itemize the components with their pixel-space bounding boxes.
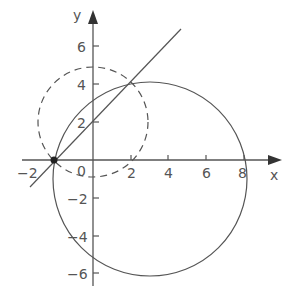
y-tick-label-minus4: −4 xyxy=(67,229,88,245)
y-axis-label: y xyxy=(73,7,81,23)
x-tick-label-0: 0 xyxy=(77,163,86,179)
x-axis-label: x xyxy=(270,167,278,183)
y-tick-label-2: 2 xyxy=(77,115,86,131)
y-tick-label-minus6: −6 xyxy=(67,266,88,282)
plot-area: y x −2 0 2 4 6 8 6 4 2 −2 −4 −6 xyxy=(0,0,285,290)
point-minus2-0 xyxy=(51,157,58,164)
y-axis-arrow-icon xyxy=(88,10,98,24)
x-tick-label-6: 6 xyxy=(202,165,211,181)
line-y-equals-x-plus-2 xyxy=(30,29,181,187)
solid-circle xyxy=(53,82,247,276)
x-tick-label-minus2: −2 xyxy=(17,165,38,181)
x-tick-label-8: 8 xyxy=(238,165,247,181)
y-tick-label-6: 6 xyxy=(77,39,86,55)
x-tick-label-4: 4 xyxy=(164,165,173,181)
x-axis-arrow-icon xyxy=(268,155,282,165)
x-ticks xyxy=(131,155,244,160)
y-tick-label-4: 4 xyxy=(77,77,86,93)
x-tick-label-2: 2 xyxy=(127,165,136,181)
y-tick-label-minus2: −2 xyxy=(67,191,88,207)
